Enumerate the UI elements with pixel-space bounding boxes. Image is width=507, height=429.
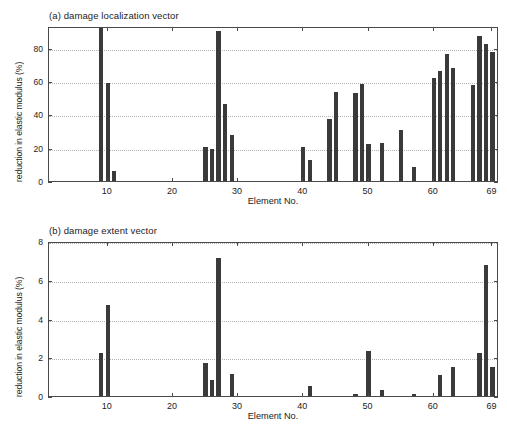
bar	[380, 390, 384, 396]
panel-a-plot-area	[48, 27, 498, 182]
bar	[308, 386, 312, 396]
bar	[106, 83, 110, 181]
x-tick-label: 20	[152, 186, 192, 196]
x-tick-label: 10	[87, 401, 127, 411]
bar	[230, 135, 234, 181]
y-tick-mark	[48, 82, 52, 83]
figure-root: (a) damage localization vector reduction…	[0, 0, 507, 429]
bar	[438, 375, 442, 396]
x-tick-mark	[172, 393, 173, 397]
bar	[353, 93, 357, 181]
x-tick-mark	[107, 393, 108, 397]
x-tick-label: 69	[471, 401, 507, 411]
x-tick-mark	[172, 178, 173, 182]
y-tick-mark	[48, 182, 52, 183]
x-tick-mark	[107, 27, 108, 31]
y-tick-mark	[494, 49, 498, 50]
x-tick-mark	[302, 178, 303, 182]
x-tick-label: 40	[282, 401, 322, 411]
x-tick-mark	[237, 393, 238, 397]
x-tick-mark	[491, 27, 492, 31]
x-tick-mark	[172, 242, 173, 246]
y-tick-label: 20	[16, 144, 43, 154]
bar	[438, 71, 442, 181]
x-tick-label: 60	[413, 401, 453, 411]
bar	[399, 130, 403, 181]
panel-a-title: (a) damage localization vector	[49, 10, 179, 21]
y-tick-mark	[494, 320, 498, 321]
bar	[451, 367, 455, 396]
bar	[99, 27, 103, 181]
panel-b-plot-area	[48, 242, 498, 397]
x-tick-label: 40	[282, 186, 322, 196]
bar	[216, 31, 220, 181]
y-tick-label: 0	[16, 177, 43, 187]
y-tick-mark	[48, 115, 52, 116]
x-tick-mark	[302, 27, 303, 31]
y-tick-label: 80	[16, 44, 43, 54]
x-tick-label: 20	[152, 401, 192, 411]
bar	[210, 149, 214, 181]
x-tick-label: 50	[348, 401, 388, 411]
bar	[477, 353, 481, 396]
bar	[380, 143, 384, 181]
x-tick-mark	[433, 393, 434, 397]
x-tick-mark	[107, 242, 108, 246]
bar	[484, 265, 488, 396]
bar	[327, 119, 331, 182]
bar	[203, 363, 207, 396]
x-tick-mark	[368, 242, 369, 246]
y-tick-mark	[494, 182, 498, 183]
panel-b-xlabel: Element No.	[48, 411, 498, 421]
y-tick-mark	[494, 82, 498, 83]
y-tick-mark	[494, 358, 498, 359]
y-tick-mark	[48, 149, 52, 150]
x-tick-mark	[172, 27, 173, 31]
y-tick-mark	[48, 320, 52, 321]
bar	[366, 144, 370, 181]
y-tick-mark	[48, 358, 52, 359]
x-tick-mark	[491, 393, 492, 397]
x-tick-mark	[491, 178, 492, 182]
x-tick-mark	[368, 393, 369, 397]
bar	[445, 54, 449, 181]
bar	[308, 160, 312, 181]
y-tick-mark	[48, 242, 52, 243]
x-tick-mark	[368, 27, 369, 31]
panel-damage-extent-vector: (b) damage extent vector reduction in el…	[0, 215, 507, 429]
bar	[484, 44, 488, 181]
y-tick-label: 6	[16, 276, 43, 286]
x-tick-label: 60	[413, 186, 453, 196]
panel-b-title: (b) damage extent vector	[49, 225, 157, 236]
bar	[230, 374, 234, 396]
y-tick-mark	[48, 49, 52, 50]
bar	[301, 147, 305, 181]
x-tick-mark	[368, 178, 369, 182]
bar	[210, 380, 214, 396]
x-tick-mark	[433, 178, 434, 182]
x-tick-label: 30	[217, 401, 257, 411]
x-tick-mark	[107, 178, 108, 182]
panel-b-bars	[49, 243, 497, 396]
panel-damage-localization-vector: (a) damage localization vector reduction…	[0, 0, 507, 215]
bar	[203, 147, 207, 181]
x-tick-label: 50	[348, 186, 388, 196]
bar	[490, 367, 494, 396]
x-tick-mark	[237, 242, 238, 246]
y-tick-mark	[48, 397, 52, 398]
bar	[432, 78, 436, 181]
bar	[99, 353, 103, 396]
x-tick-label: 69	[471, 186, 507, 196]
y-tick-mark	[494, 397, 498, 398]
y-tick-label: 2	[16, 353, 43, 363]
x-tick-mark	[302, 242, 303, 246]
panel-b-ylabel: reduction in elastic modulus (%)	[14, 277, 24, 397]
bar	[353, 394, 357, 396]
bar	[490, 52, 494, 181]
y-tick-label: 8	[16, 237, 43, 247]
x-tick-mark	[433, 242, 434, 246]
x-tick-label: 10	[87, 186, 127, 196]
x-tick-mark	[237, 27, 238, 31]
x-tick-mark	[237, 178, 238, 182]
x-tick-mark	[491, 242, 492, 246]
